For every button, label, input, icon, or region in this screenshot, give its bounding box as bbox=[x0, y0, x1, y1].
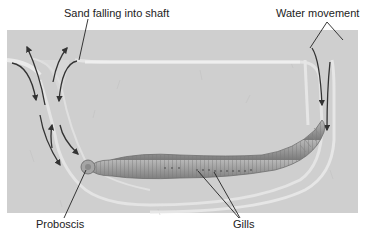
label-sand-falling: Sand falling into shaft bbox=[64, 7, 169, 20]
diagram-container: Sand falling into shaft Water movement P… bbox=[0, 0, 365, 239]
label-water-movement: Water movement bbox=[276, 7, 359, 20]
burrow-illustration bbox=[0, 0, 365, 239]
sand-background bbox=[7, 30, 358, 213]
label-proboscis: Proboscis bbox=[36, 218, 84, 231]
label-gills: Gills bbox=[233, 218, 254, 231]
